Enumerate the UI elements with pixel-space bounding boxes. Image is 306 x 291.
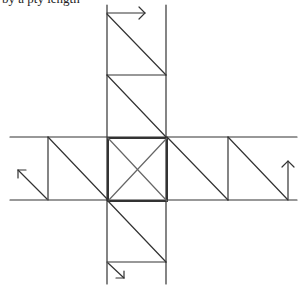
upper-diagonal-1	[107, 14, 166, 75]
cube-net-diagram	[0, 0, 306, 291]
arrow-up-left-icon	[18, 170, 47, 199]
left-diagonal	[48, 137, 108, 200]
right-diagonal-2	[228, 137, 288, 200]
arrow-right-icon	[107, 7, 145, 19]
lower-diagonal	[107, 200, 166, 262]
right-diagonal-1	[167, 137, 228, 200]
arrow-down-right-icon	[108, 263, 124, 278]
upper-diagonal-2	[107, 75, 166, 137]
arrow-up-icon	[282, 161, 294, 199]
